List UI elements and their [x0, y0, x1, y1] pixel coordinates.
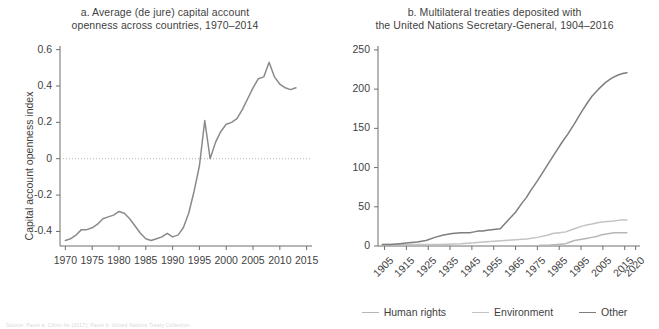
panel-b-title: b. Multilateral treaties deposited with … — [330, 6, 659, 32]
panel-a-title-line1: a. Average (de jure) capital account — [81, 6, 250, 18]
panel-b-ytick-5: 250 — [330, 43, 370, 55]
panel-a-xtick-9: 2015 — [287, 254, 327, 266]
legend-item-environment[interactable]: Environment — [472, 306, 553, 318]
panel-a-y-axis-label: Capital account openness index — [23, 91, 35, 241]
figure-source-note: Source: Panel a: Chinn-Ito (2017); Panel… — [6, 322, 191, 328]
legend-swatch-icon — [579, 312, 596, 313]
panel-a-ytick-1: -0.2 — [8, 188, 52, 200]
panel-b-legend: Human rightsEnvironmentOther — [330, 306, 659, 318]
panel-b-ytick-0: 0 — [330, 239, 370, 251]
panel-b-ytick-3: 150 — [330, 121, 370, 133]
figure-container: a. Average (de jure) capital account ope… — [0, 0, 659, 329]
panel-b-series-line-human-rights — [540, 233, 627, 246]
legend-label: Other — [601, 306, 627, 318]
panel-b-title-line2: the United Nations Secretary-General, 19… — [375, 19, 613, 31]
legend-item-other[interactable]: Other — [579, 306, 627, 318]
panel-a-title: a. Average (de jure) capital account ope… — [0, 6, 330, 32]
panel-a: a. Average (de jure) capital account ope… — [0, 0, 330, 329]
legend-label: Environment — [494, 306, 553, 318]
panel-a-series-line — [65, 62, 296, 240]
panel-a-ytick-5: 0.6 — [8, 43, 52, 55]
panel-b-title-line1: b. Multilateral treaties deposited with — [408, 6, 582, 18]
legend-item-human-rights[interactable]: Human rights — [362, 306, 446, 318]
panel-a-ytick-0: -0.4 — [8, 224, 52, 236]
panel-a-ytick-4: 0.4 — [8, 79, 52, 91]
panel-a-title-line2: openness across countries, 1970–2014 — [72, 19, 259, 31]
panel-b: b. Multilateral treaties deposited with … — [330, 0, 659, 329]
panel-b-ytick-4: 200 — [330, 82, 370, 94]
panel-a-ytick-2: 0 — [8, 152, 52, 164]
legend-label: Human rights — [384, 306, 446, 318]
panel-a-plot-area — [60, 46, 312, 271]
legend-swatch-icon — [472, 312, 489, 313]
panel-b-plot-area — [378, 46, 640, 271]
panel-b-ytick-2: 100 — [330, 161, 370, 173]
panel-b-series-line-other — [382, 73, 627, 245]
panel-a-ytick-3: 0.2 — [8, 115, 52, 127]
panel-b-ytick-1: 50 — [330, 200, 370, 212]
legend-swatch-icon — [362, 312, 379, 313]
